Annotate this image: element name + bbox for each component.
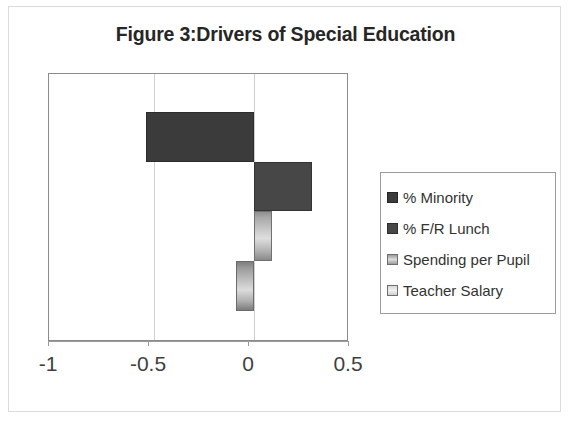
bar-spending-per-pupil[interactable] bbox=[254, 211, 272, 261]
x-tick-label-minus-0-5: -0.5 bbox=[118, 352, 178, 376]
legend-item-spending-per-pupil[interactable]: Spending per Pupil bbox=[387, 244, 555, 275]
chart-title: Figure 3:Drivers of Special Education bbox=[9, 23, 562, 46]
legend-item-fr-lunch[interactable]: % F/R Lunch bbox=[387, 213, 555, 244]
legend-swatch-icon-teacher-salary bbox=[387, 285, 398, 296]
x-tick-label-minus-1: -1 bbox=[28, 352, 68, 376]
bar-teacher-salary[interactable] bbox=[236, 261, 254, 311]
bar-minority[interactable] bbox=[146, 112, 254, 162]
x-tick-mark-0 bbox=[48, 341, 49, 346]
legend-swatch-icon-fr-lunch bbox=[387, 223, 398, 234]
legend-swatch-icon-minority bbox=[387, 192, 398, 203]
legend-swatch-icon-spending-per-pupil bbox=[387, 254, 398, 265]
bar-fr-lunch[interactable] bbox=[254, 162, 312, 211]
legend-item-teacher-salary[interactable]: Teacher Salary bbox=[387, 275, 555, 306]
x-tick-label-zero-5: 0.5 bbox=[318, 352, 378, 376]
x-tick-mark-1 bbox=[148, 341, 149, 346]
legend-label-spending-per-pupil: Spending per Pupil bbox=[403, 251, 530, 268]
chart-legend: % Minority % F/R Lunch Spending per Pupi… bbox=[380, 172, 556, 314]
legend-label-teacher-salary: Teacher Salary bbox=[403, 282, 503, 299]
figure-frame: Figure 3:Drivers of Special Education -1… bbox=[8, 6, 561, 412]
legend-item-minority[interactable]: % Minority bbox=[387, 182, 555, 213]
legend-label-minority: % Minority bbox=[403, 189, 473, 206]
x-tick-mark-2 bbox=[248, 341, 249, 346]
x-tick-mark-3 bbox=[348, 341, 349, 346]
x-tick-label-zero: 0 bbox=[228, 352, 268, 376]
x-axis-line bbox=[48, 341, 348, 342]
legend-label-fr-lunch: % F/R Lunch bbox=[403, 220, 490, 237]
plot-area bbox=[48, 73, 348, 341]
